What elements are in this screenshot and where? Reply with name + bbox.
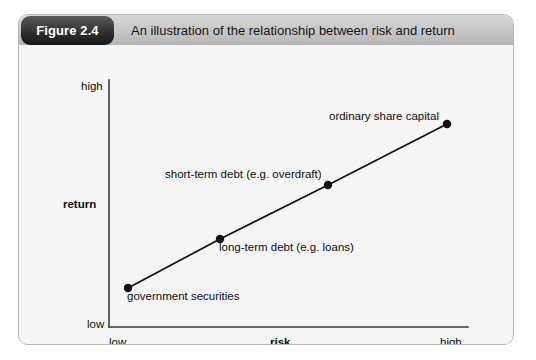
figure-number-label: Figure 2.4 bbox=[36, 24, 98, 37]
data-point-short-term-debt bbox=[324, 181, 332, 189]
figure-header: Figure 2.4 An illustration of the relati… bbox=[19, 15, 514, 45]
figure-card: Figure 2.4 An illustration of the relati… bbox=[18, 14, 514, 345]
y-axis-title: return bbox=[63, 199, 96, 211]
annotation-ordinary-share-capital: ordinary share capital bbox=[329, 111, 439, 123]
chart-area: high low low high return risk government… bbox=[19, 45, 514, 345]
figure-root: Figure 2.4 An illustration of the relati… bbox=[0, 0, 536, 360]
figure-number-tag: Figure 2.4 bbox=[21, 16, 114, 45]
risk-return-line bbox=[128, 124, 447, 288]
annotation-government-securities: government securities bbox=[127, 291, 240, 303]
x-axis-tick-low: low bbox=[109, 337, 126, 345]
y-axis-tick-low: low bbox=[87, 319, 104, 331]
data-point-ordinary-share-capital bbox=[443, 120, 451, 128]
annotation-long-term-debt: long-term debt (e.g. loans) bbox=[219, 242, 354, 254]
y-axis-tick-high: high bbox=[81, 81, 103, 93]
x-axis-title: risk bbox=[270, 337, 290, 345]
annotation-short-term-debt: short-term debt (e.g. overdraft) bbox=[165, 169, 322, 181]
x-axis-tick-high: high bbox=[440, 337, 462, 345]
figure-title: An illustration of the relationship betw… bbox=[131, 15, 455, 45]
